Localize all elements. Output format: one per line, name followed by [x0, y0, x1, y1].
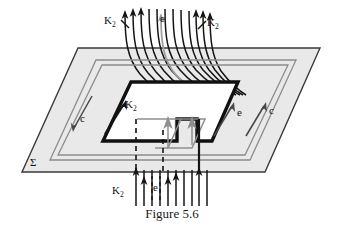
- label-inner-left-k2: K: [125, 98, 133, 110]
- label-inner-left-k2-sub: 2: [133, 104, 137, 113]
- label-top-right-k2-sub: 2: [215, 22, 219, 31]
- label-top-right-k2: K: [207, 16, 215, 28]
- label-bottom-left-k2-sub: 2: [120, 190, 124, 199]
- label-left-plane-c: c: [80, 112, 85, 124]
- label-top-left-k2-sub: 2: [112, 20, 116, 29]
- label-bottom-left-k2: K: [112, 184, 120, 196]
- figure-container: K 2 e K 2 c K 2 e c Σ K 2 e Figure 5.6: [0, 0, 344, 227]
- flux-arrowheads-top: [122, 7, 214, 21]
- label-bottom-middle-e: e: [153, 181, 158, 193]
- label-right-plane-c: c: [269, 104, 274, 116]
- label-right-inner-e: e: [237, 106, 242, 118]
- label-top-left-k2: K: [104, 14, 112, 26]
- figure-diagram: K 2 e K 2 c K 2 e c Σ K 2 e Figure 5.6: [0, 0, 344, 227]
- label-top-middle-e: e: [160, 12, 165, 24]
- figure-caption: Figure 5.6: [145, 206, 199, 221]
- label-sigma-plane: Σ: [30, 156, 36, 168]
- flux-bundle-bottom: [136, 168, 207, 206]
